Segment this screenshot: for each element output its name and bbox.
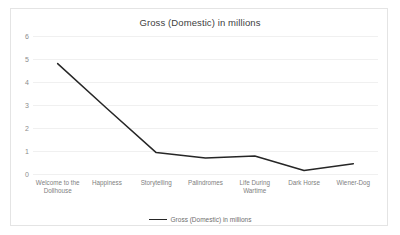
- y-axis-tick-label: 0: [25, 171, 29, 178]
- chart-container: Gross (Domestic) in millions 6543210 Wel…: [10, 8, 388, 226]
- line-series-gross-domestic: [33, 36, 378, 174]
- x-axis-label-3: Palindromes: [181, 179, 230, 194]
- y-axis-tick-label: 1: [25, 148, 29, 155]
- gridline: 0: [33, 174, 378, 175]
- y-axis-tick-label: 4: [25, 79, 29, 86]
- y-axis-tick-label: 3: [25, 102, 29, 109]
- x-axis-label-0: Welcome to the Dollhouse: [33, 179, 82, 194]
- y-axis-tick-label: 6: [25, 33, 29, 40]
- x-axis-labels: Welcome to the DollhouseHappinessStoryte…: [33, 179, 378, 194]
- x-axis-label-1: Happiness: [82, 179, 131, 194]
- legend-line-swatch: [149, 219, 167, 220]
- chart-legend: Gross (Domestic) in millions: [11, 216, 389, 223]
- x-axis-label-2: Storytelling: [132, 179, 181, 194]
- x-axis-label-6: Wiener-Dog: [329, 179, 378, 194]
- y-axis-tick-label: 2: [25, 125, 29, 132]
- x-axis-label-4: Life During Wartime: [230, 179, 279, 194]
- x-axis-label-5: Dark Horse: [279, 179, 328, 194]
- legend-label: Gross (Domestic) in millions: [171, 216, 252, 223]
- chart-title: Gross (Domestic) in millions: [11, 17, 389, 28]
- plot-area: 6543210: [33, 36, 378, 174]
- y-axis-tick-label: 5: [25, 56, 29, 63]
